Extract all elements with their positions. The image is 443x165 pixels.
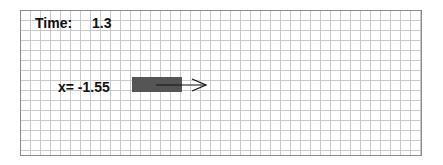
time-value: 1.3: [92, 15, 111, 31]
time-label: Time:: [35, 15, 72, 31]
position-readout: x= -1.55: [58, 79, 110, 95]
velocity-arrow-icon: [156, 77, 216, 93]
simulation-canvas: Time: 1.3 x= -1.55: [20, 10, 422, 156]
